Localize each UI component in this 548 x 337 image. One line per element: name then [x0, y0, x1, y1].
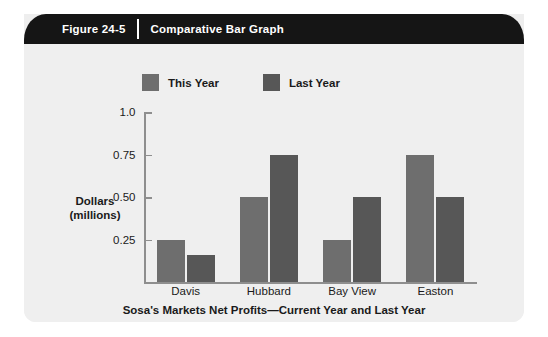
chart-legend: This Year Last Year [142, 74, 384, 91]
bar-group [144, 112, 227, 282]
y-tick-label: 0.25 [113, 234, 135, 246]
plot-area: 0.250.500.751.0 [144, 112, 477, 282]
figure-number-label: Figure 24-5 [24, 14, 137, 44]
bar [157, 240, 185, 283]
y-tick-label: 1.0 [120, 106, 136, 118]
x-axis-category-label: Hubbard [227, 285, 310, 297]
y-tick-label: 0.50 [113, 191, 135, 203]
y-tick-label: 0.75 [113, 149, 135, 161]
bar [406, 155, 434, 283]
legend-item-this-year: This Year [142, 74, 219, 91]
legend-item-last-year: Last Year [263, 74, 340, 91]
bar [323, 240, 351, 283]
x-axis-category-label: Davis [144, 285, 227, 297]
bar-groups [144, 112, 477, 282]
figure-banner: Figure 24-5 Comparative Bar Graph [24, 14, 524, 44]
bar [187, 255, 215, 282]
x-axis-line [144, 282, 477, 284]
bar [353, 197, 381, 282]
legend-swatch-last-year [263, 74, 280, 91]
legend-label-last-year: Last Year [289, 77, 340, 89]
y-axis-title-line2: (millions) [56, 208, 134, 222]
bar-group [394, 112, 477, 282]
bar-group [311, 112, 394, 282]
figure-card: Figure 24-5 Comparative Bar Graph This Y… [24, 14, 524, 322]
bar [240, 197, 268, 282]
chart-panel: This Year Last Year Dollars (millions) 0… [24, 44, 524, 322]
bar-group [227, 112, 310, 282]
x-axis-category-label: Bay View [311, 285, 394, 297]
legend-swatch-this-year [142, 74, 159, 91]
chart-subtitle: Sosa's Markets Net Profits—Current Year … [24, 304, 524, 316]
bar [436, 197, 464, 282]
figure-title: Comparative Bar Graph [139, 14, 284, 44]
x-axis-category-label: Easton [394, 285, 477, 297]
legend-label-this-year: This Year [168, 77, 219, 89]
x-axis-category-labels: DavisHubbardBay ViewEaston [144, 285, 477, 297]
bar [270, 155, 298, 283]
